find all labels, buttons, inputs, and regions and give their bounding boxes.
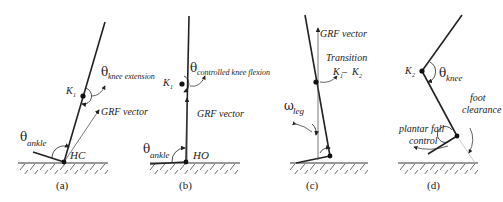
theta-knee-subscript-b: controlled knee flexion [197,68,270,77]
plantar-fall-label-1: plantar fall [398,123,445,134]
panel-a: θ knee extension K 1 GRF vector θ ankle … [18,22,155,192]
ground-d [398,163,478,174]
foot-clearance-label-1: foot [470,92,486,103]
grf-label-c: GRF vector [320,28,367,39]
knee-joint-c [313,79,318,84]
grf-label-a: GRF vector [101,106,148,117]
transition-k2-sub: 2 [359,73,362,79]
event-label-ho: HO [192,149,209,161]
ankle-joint-d [455,134,460,139]
knee-joint-b [179,81,184,86]
theta-knee-subscript-d: knee [446,73,462,83]
panel-c: GRF vector Transition K 1 – K 2 ω leg (c… [284,15,368,192]
thigh-segment-d [422,15,462,71]
knee-label-sub-a: 1 [73,92,76,98]
theta-knee-subscript-a: knee extension [108,72,155,81]
knee-joint-a [80,93,85,98]
foot-segment-a [33,152,64,162]
panel-b: θ controlled knee flexion K 1 GRF vector… [143,16,270,192]
knee-label-sub-b: 1 [170,84,173,90]
ground-c [290,163,368,174]
foot-clearance-line [457,136,475,163]
heel-contact-point-a [62,160,67,165]
gait-phase-diagram: θ knee extension K 1 GRF vector θ ankle … [0,0,503,202]
caption-d: (d) [427,179,440,192]
knee-joint-d [419,68,424,73]
caption-a: (a) [56,179,69,192]
event-label-hc: HC [69,149,86,161]
foot-clearance-label-2: clearance [462,104,502,115]
theta-ankle-subscript-a: ankle [27,138,47,148]
ground-b [150,163,240,174]
plantar-fall-label-2: control [409,135,438,146]
theta-ankle-subscript-b: ankle [150,150,170,160]
ground-a [18,163,108,174]
transition-label: Transition [326,52,367,63]
omega-subscript: leg [293,106,304,116]
caption-b: (b) [179,179,192,192]
heel-off-point-b [184,160,189,165]
grf-label-b: GRF vector [197,108,244,119]
panel-d: K 2 θ knee foot clearance plantar fall c… [398,15,502,192]
foot-segment-c [296,156,330,163]
toe-point-c [328,154,333,159]
caption-c: (c) [306,179,319,192]
knee-label-sub-d: 2 [412,72,415,78]
foot-segment-b [150,162,186,164]
transition-dash: – [341,66,348,77]
